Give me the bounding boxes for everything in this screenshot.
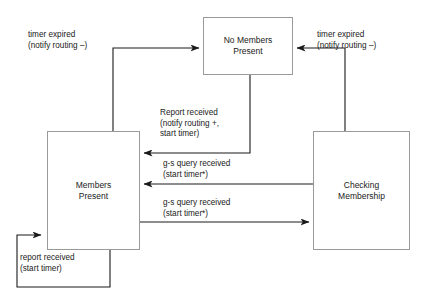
- edge-label-members-to-checking: g-s query received (start timer*): [163, 198, 230, 219]
- edge-label-members-self-loop: report received (start timer): [20, 253, 75, 274]
- state-box-checking-membership[interactable]: Checking Membership: [313, 131, 410, 250]
- state-diagram-canvas: No Members Present Members Present Check…: [0, 0, 436, 302]
- state-label-checking-membership: Checking Membership: [338, 180, 385, 202]
- edge-label-members-to-no-members: timer expired (notify routing –): [28, 30, 87, 51]
- state-label-members-present: Members Present: [76, 180, 111, 202]
- edge-label-checking-to-members: g-s query received (start timer*): [163, 159, 230, 180]
- edge-checking-to-no-members: [297, 48, 345, 131]
- edge-label-checking-to-no-members: timer expired (notify routing –): [317, 30, 376, 51]
- state-box-members-present[interactable]: Members Present: [47, 131, 140, 250]
- edge-label-no-members-to-members: Report received (notify routing +, start…: [160, 108, 219, 140]
- state-label-no-members-present: No Members Present: [224, 35, 273, 57]
- state-box-no-members-present[interactable]: No Members Present: [203, 17, 293, 75]
